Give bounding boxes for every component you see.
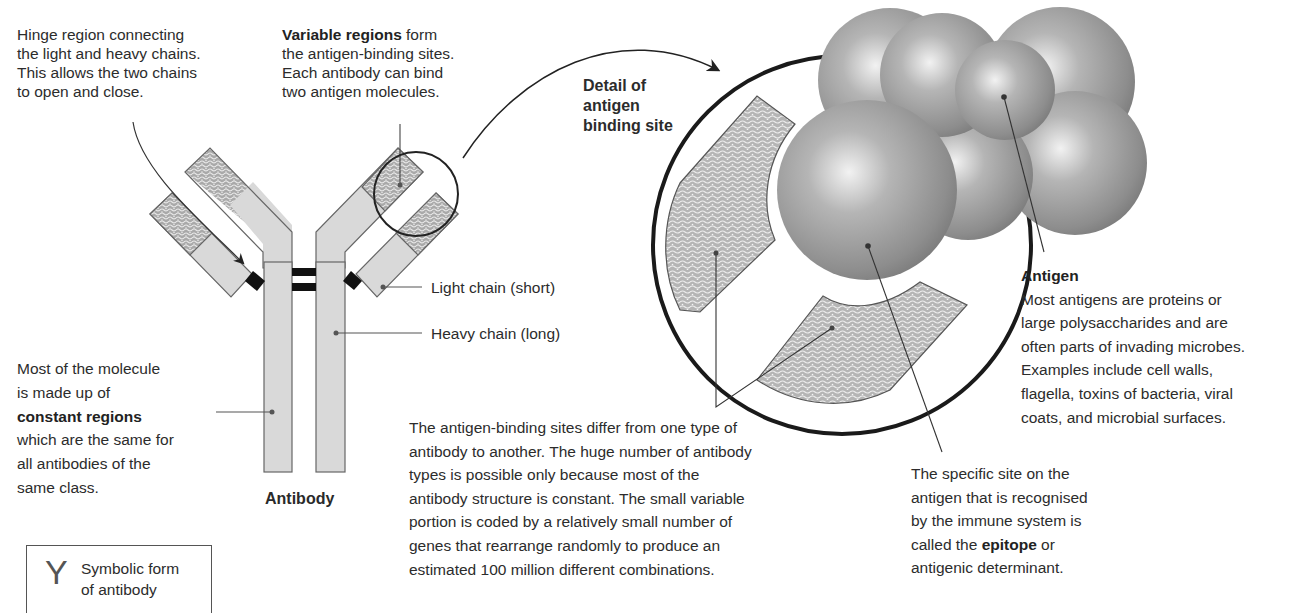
detail-label-line: binding site [583,116,673,136]
binding-sites-line: antibody to another. The huge number of … [409,440,752,464]
detail-label: Detail of antigen binding site [583,76,673,136]
variable-label-line: Each antibody can bind [282,63,454,82]
variable-regions-label: Variable regions form the antigen-bindin… [282,25,454,101]
antigen-line: flagella, toxins of bacteria, viral [1021,382,1245,406]
right-heavy-stem [316,262,345,472]
left-heavy-stem [264,262,292,472]
epitope-description: The specific site on the antigen that is… [911,462,1088,580]
symbolic-form-label: Symbolic form of antibody [81,558,179,600]
constant-label-line: is made up of [17,381,174,405]
binding-sites-line: The antigen-binding sites differ from on… [409,416,752,440]
variable-pointer-dot [398,183,403,188]
antigen-sphere-large [777,100,957,280]
epitope-term: epitope [982,536,1037,553]
antibody-symbol-icon: Y [45,555,68,589]
symbolic-label-line: of antibody [81,579,179,600]
constant-pointer-dot [270,410,275,415]
binding-sites-line: antibody structure is constant. The smal… [409,487,752,511]
variable-regions-term: Variable regions [282,26,402,43]
hinge-label-line: to open and close. [17,82,201,101]
epitope-pointer-dot [865,243,871,249]
constant-regions-term: constant regions [17,408,142,425]
binding-sites-line: genes that rearrange randomly to produce… [409,534,752,558]
epitope-line: The specific site on the [911,462,1088,486]
antigen-line: Examples include cell walls, [1021,358,1245,382]
heavy-chain-pointer-dot [334,331,339,336]
antigen-line: large polysaccharides and are [1021,311,1245,335]
epitope-line: antigen that is recognised [911,486,1088,510]
epitope-line-suffix: or [1037,536,1055,553]
binding-sites-description: The antigen-binding sites differ from on… [409,416,752,581]
symbolic-label-line: Symbolic form [81,558,179,579]
binding-sites-line: estimated 100 million different combinat… [409,558,752,582]
hinge-label: Hinge region connecting the light and he… [17,25,201,101]
constant-label-line: same class. [17,476,174,500]
variable-label-line: two antigen molecules. [282,82,454,101]
variable-label-line: the antigen-binding sites. [282,44,454,63]
antigen-term: Antigen [1021,267,1079,284]
constant-label-line: which are the same for [17,428,174,452]
binding-sites-line: types is possible only because most of t… [409,463,752,487]
antigen-line: often parts of invading microbes. [1021,335,1245,359]
antigen-pointer-dot [1001,94,1007,100]
constant-label-line: all antibodies of the [17,452,174,476]
epitope-line: antigenic determinant. [911,556,1088,580]
antigen-sphere [955,40,1055,140]
antigen-line: Most antigens are proteins or [1021,288,1245,312]
antigen-cluster [777,7,1147,280]
hinge-label-line: This allows the two chains [17,63,201,82]
disulfide-bond-lower [292,283,316,291]
detail-label-line: Detail of [583,76,673,96]
heavy-chain-label: Heavy chain (long) [431,324,560,343]
epitope-line: by the immune system is [911,509,1088,533]
hinge-label-line: Hinge region connecting [17,25,201,44]
light-chain-pointer-dot [381,285,386,290]
antibody-caption: Antibody [265,490,334,508]
detail-label-line: antigen [583,96,673,116]
disulfide-bond-upper [292,268,316,276]
antigen-line: coats, and microbial surfaces. [1021,406,1245,430]
antigen-description: Antigen Most antigens are proteins or la… [1021,264,1245,429]
binding-site-dot-bottom [830,326,835,331]
epitope-line-prefix: called the [911,536,982,553]
binding-site-dot-left [714,251,719,256]
light-chain-label: Light chain (short) [431,278,555,297]
binding-sites-line: portion is coded by a relatively small n… [409,510,752,534]
constant-regions-label: Most of the molecule is made up of const… [17,357,174,500]
constant-label-line: Most of the molecule [17,357,174,381]
variable-regions-form: form [402,26,437,43]
hinge-label-line: the light and heavy chains. [17,44,201,63]
